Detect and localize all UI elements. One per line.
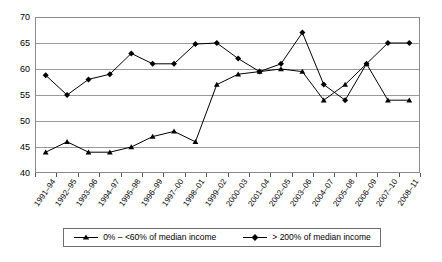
y-axis-label: 70 [20, 13, 30, 22]
x-axis: 1991–941992–951993–961994–971995–981996–… [0, 176, 442, 222]
y-axis: 40455055606570 [0, 0, 33, 190]
gridline [36, 95, 419, 96]
x-axis-label: 1991–94 [16, 178, 57, 232]
y-axis-label: 55 [20, 91, 30, 100]
gridline [36, 69, 419, 70]
gridline [36, 147, 419, 148]
gridline [36, 43, 419, 44]
legend-label: > 200% of median income [272, 233, 371, 242]
y-axis-label: 60 [20, 65, 30, 74]
legend-item-low-income: 0% – <60% of median income [73, 233, 216, 242]
legend-label: 0% – <60% of median income [103, 233, 216, 242]
gridline [36, 121, 419, 122]
legend: 0% – <60% of median income > 200% of med… [63, 228, 381, 247]
y-axis-label: 50 [20, 117, 30, 126]
legend-item-high-income: > 200% of median income [242, 233, 371, 242]
diamond-marker-icon [242, 233, 268, 242]
y-axis-label: 45 [20, 143, 30, 152]
y-axis-label: 65 [20, 39, 30, 48]
line-chart: 40455055606570 1991–941992–951993–961994… [0, 0, 442, 262]
plot-area [35, 17, 420, 173]
triangle-marker-icon [73, 233, 99, 242]
